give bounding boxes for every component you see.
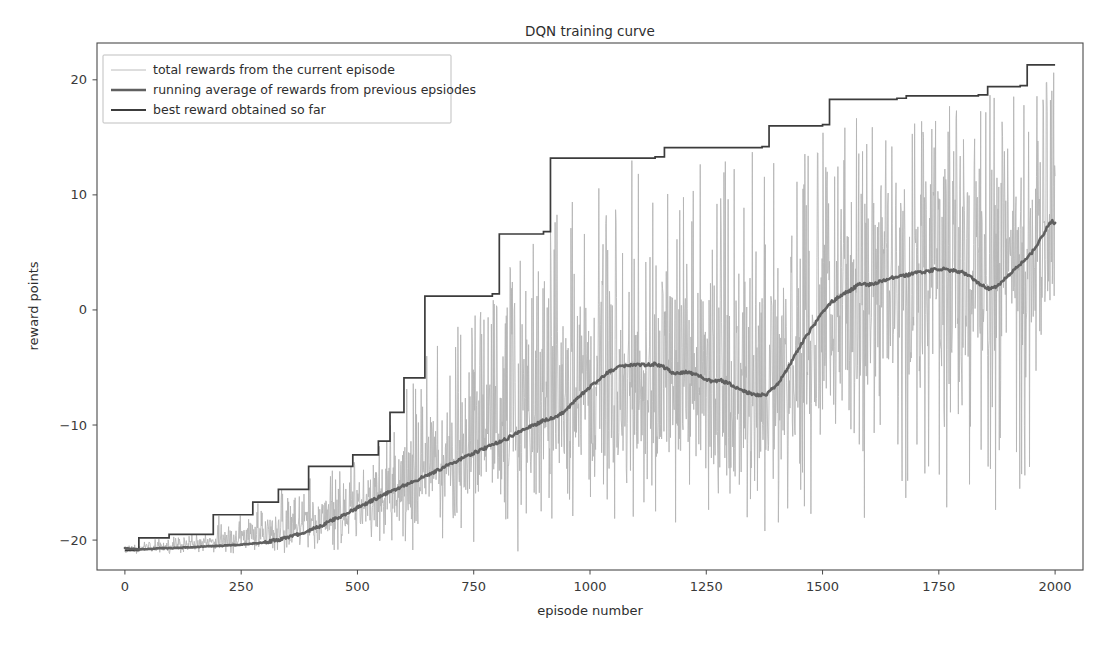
x-tick-label: 250 bbox=[229, 579, 254, 594]
x-tick-label: 1750 bbox=[922, 579, 955, 594]
y-tick-label: 0 bbox=[79, 302, 87, 317]
y-axis-label: reward points bbox=[26, 261, 41, 350]
x-tick-label: 0 bbox=[121, 579, 129, 594]
x-tick-label: 500 bbox=[345, 579, 370, 594]
legend-label-episode-rewards: total rewards from the current episode bbox=[153, 62, 395, 77]
x-tick-label: 750 bbox=[461, 579, 486, 594]
x-tick-label: 1000 bbox=[573, 579, 606, 594]
y-tick-label: −20 bbox=[60, 533, 87, 548]
legend-label-running-average: running average of rewards from previous… bbox=[153, 82, 476, 97]
x-tick-label: 1500 bbox=[806, 579, 839, 594]
legend-entry-episode-rewards: total rewards from the current episode bbox=[111, 62, 395, 77]
dqn-training-curve-chart: DQN training curve 025050075010001250150… bbox=[0, 0, 1115, 646]
legend-label-best-reward: best reward obtained so far bbox=[153, 102, 327, 117]
legend-entry-running-average: running average of rewards from previous… bbox=[111, 82, 476, 97]
x-axis-label: episode number bbox=[537, 603, 643, 618]
y-tick-label: −10 bbox=[60, 418, 87, 433]
chart-title: DQN training curve bbox=[525, 23, 655, 39]
chart-legend: total rewards from the current episode r… bbox=[103, 55, 476, 123]
chart-figure: DQN training curve 025050075010001250150… bbox=[0, 0, 1115, 646]
x-tick-label: 1250 bbox=[690, 579, 723, 594]
x-tick-label: 2000 bbox=[1039, 579, 1072, 594]
y-tick-label: 10 bbox=[70, 187, 87, 202]
y-tick-label: 20 bbox=[70, 72, 87, 87]
